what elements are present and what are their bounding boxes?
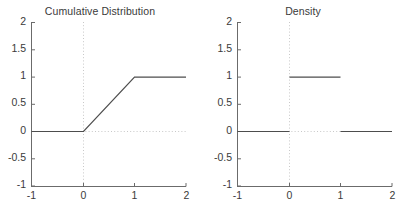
x-tick-label: -1 bbox=[225, 189, 250, 201]
y-tick-label: 0 bbox=[2, 124, 26, 136]
x-tick-label: 0 bbox=[71, 189, 96, 201]
y-tick-label: -0.5 bbox=[208, 151, 232, 163]
y-tick-marks bbox=[32, 23, 36, 187]
x-tick-marks bbox=[238, 183, 393, 187]
y-tick-label: 1.5 bbox=[2, 42, 26, 54]
y-tick-label: 1 bbox=[208, 69, 232, 81]
y-tick-label: 0 bbox=[208, 124, 232, 136]
y-tick-label: 2 bbox=[2, 15, 26, 27]
x-tick-label: 2 bbox=[380, 189, 400, 201]
figure-canvas: Cumulative Distribution bbox=[0, 0, 400, 211]
chart-panel-density: Density bbox=[206, 0, 400, 211]
data-series-cdf bbox=[32, 77, 187, 131]
x-tick-label: 2 bbox=[174, 189, 199, 201]
y-tick-label: 1 bbox=[2, 69, 26, 81]
y-tick-label: 1.5 bbox=[208, 42, 232, 54]
x-tick-label: 1 bbox=[122, 189, 147, 201]
y-tick-label: 0.5 bbox=[208, 96, 232, 108]
plot-area-cumulative-distribution bbox=[0, 0, 200, 211]
x-tick-label: -1 bbox=[19, 189, 44, 201]
x-tick-marks bbox=[32, 183, 187, 187]
y-tick-marks bbox=[238, 23, 242, 187]
chart-panel-cumulative-distribution: Cumulative Distribution bbox=[0, 0, 200, 211]
y-tick-label: 2 bbox=[208, 15, 232, 27]
x-tick-label: 1 bbox=[328, 189, 353, 201]
x-tick-label: 0 bbox=[277, 189, 302, 201]
y-tick-label: -0.5 bbox=[2, 151, 26, 163]
plot-area-density bbox=[206, 0, 400, 211]
y-tick-label: 0.5 bbox=[2, 96, 26, 108]
